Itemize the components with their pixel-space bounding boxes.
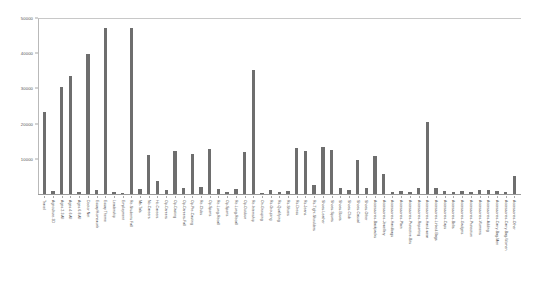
x-tick-mark <box>514 196 515 198</box>
bar[interactable] <box>77 192 80 194</box>
bar[interactable] <box>173 151 176 194</box>
x-tick-label: Op-Careers <box>164 200 168 219</box>
bar[interactable] <box>112 192 115 194</box>
bar[interactable] <box>51 191 54 194</box>
x-tick-mark <box>384 196 385 198</box>
x-tick-label: Shoes-Club <box>347 200 351 219</box>
x-tick-mark <box>149 196 150 198</box>
x-tick-label: Accessories-Carry-Bag-Women <box>504 200 508 251</box>
bar-slot <box>223 18 232 194</box>
x-label-slot: Accessories-Protection <box>466 196 475 284</box>
bar[interactable] <box>208 149 211 194</box>
bar[interactable] <box>60 87 63 194</box>
bar[interactable] <box>86 54 89 194</box>
x-tick-mark <box>488 196 489 198</box>
bar[interactable] <box>269 190 272 194</box>
bar[interactable] <box>347 190 350 194</box>
bar[interactable] <box>312 185 315 194</box>
x-tick-mark <box>79 196 80 198</box>
bar[interactable] <box>382 174 385 194</box>
bar[interactable] <box>443 191 446 194</box>
bar[interactable] <box>199 187 202 194</box>
bar[interactable] <box>365 188 368 194</box>
x-tick-mark <box>375 196 376 198</box>
bar[interactable] <box>339 188 342 194</box>
bar[interactable] <box>138 189 141 194</box>
x-tick-label: Accessories-Other <box>512 200 516 230</box>
bar[interactable] <box>165 190 168 194</box>
x-tick-mark <box>419 196 420 198</box>
bar[interactable] <box>321 147 324 194</box>
bar[interactable] <box>191 154 194 194</box>
bar[interactable] <box>304 151 307 194</box>
bar[interactable] <box>147 155 150 194</box>
x-tick-label: Re-Internship <box>251 200 255 222</box>
x-tick-label: Doctor Net <box>86 200 90 217</box>
bar-slot <box>345 18 354 194</box>
bar[interactable] <box>295 148 298 194</box>
x-label-slot: Ages 6-8 All <box>75 196 84 284</box>
bar[interactable] <box>278 192 281 194</box>
bar[interactable] <box>121 193 124 194</box>
bar[interactable] <box>225 192 228 194</box>
bar-slot <box>49 18 58 194</box>
bar-slot <box>327 18 336 194</box>
bar[interactable] <box>460 191 463 194</box>
x-axis-labels: TravelAgriculture-3DAges 2-3 AllAges 4-6… <box>38 196 521 284</box>
bar[interactable] <box>469 192 472 194</box>
bar[interactable] <box>356 160 359 194</box>
bar-slot <box>179 18 188 194</box>
x-tick-mark <box>184 196 185 198</box>
x-label-slot: Shoes-Casual <box>353 196 362 284</box>
bar[interactable] <box>495 191 498 194</box>
x-tick-label: Op-Pre-Casting <box>190 200 194 225</box>
bar[interactable] <box>217 189 220 194</box>
bar[interactable] <box>513 176 516 194</box>
bar[interactable] <box>417 188 420 194</box>
x-label-slot: Rs-Tight-Shoulders <box>310 196 319 284</box>
bar[interactable] <box>434 188 437 194</box>
bar[interactable] <box>104 28 107 194</box>
x-axis-line <box>38 194 521 195</box>
bar[interactable] <box>252 70 255 194</box>
x-label-slot: Accessories-Caps <box>440 196 449 284</box>
x-tick-label: Essay Theme <box>103 200 107 222</box>
bar[interactable] <box>156 181 159 194</box>
bar[interactable] <box>408 192 411 194</box>
bar[interactable] <box>330 150 333 194</box>
bar[interactable] <box>391 192 394 194</box>
bar-slot <box>466 18 475 194</box>
x-tick-label: Accessories-Protective-Bits <box>408 200 412 244</box>
bar[interactable] <box>182 188 185 194</box>
x-label-slot: Accessories-Carry-Bag-Men <box>493 196 502 284</box>
bar[interactable] <box>399 191 402 194</box>
x-tick-mark <box>366 196 367 198</box>
bar[interactable] <box>426 122 429 194</box>
bar[interactable] <box>43 112 46 194</box>
bar[interactable] <box>69 76 72 194</box>
bar[interactable] <box>286 191 289 194</box>
bar-slot <box>249 18 258 194</box>
bar-slot <box>127 18 136 194</box>
x-tick-label: Me-Tals <box>138 200 142 213</box>
x-tick-mark <box>166 196 167 198</box>
x-tick-mark <box>157 196 158 198</box>
bar[interactable] <box>478 190 481 194</box>
bar[interactable] <box>260 193 263 194</box>
bar[interactable] <box>487 190 490 194</box>
x-tick-label: Shoes-Casual <box>356 200 360 223</box>
bar[interactable] <box>234 189 237 194</box>
bar[interactable] <box>373 156 376 194</box>
y-tick-label: 10000 <box>21 156 33 161</box>
bar[interactable] <box>504 192 507 194</box>
bar-slot <box>406 18 415 194</box>
x-label-slot: Op-Pre-Casting <box>188 196 197 284</box>
x-tick-mark <box>210 196 211 198</box>
bar[interactable] <box>452 192 455 194</box>
bar-slot <box>84 18 93 194</box>
bar-slot <box>414 18 423 194</box>
bar[interactable] <box>130 28 133 194</box>
bar[interactable] <box>243 152 246 194</box>
x-label-slot: Agriculture-3D <box>49 196 58 284</box>
bar[interactable] <box>95 190 98 194</box>
